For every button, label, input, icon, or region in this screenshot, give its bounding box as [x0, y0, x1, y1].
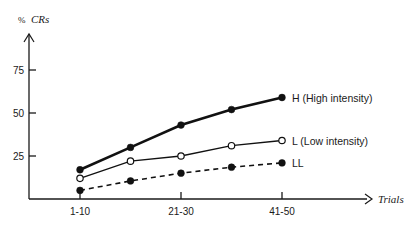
series-2: L (Low intensity): [77, 135, 368, 182]
y-tick-label: 25: [13, 151, 25, 162]
data-point: [77, 166, 84, 173]
data-point: [228, 164, 235, 171]
data-point: [279, 94, 286, 101]
series-label: LL: [292, 157, 304, 169]
x-tick-label: 1-10: [70, 206, 90, 217]
x-tick-label: 41-50: [269, 206, 295, 217]
y-tick-label: 75: [13, 65, 25, 76]
data-point: [127, 178, 134, 185]
data-point: [178, 153, 184, 159]
y-axis-title: CRs: [31, 13, 49, 25]
data-point: [127, 144, 134, 151]
data-point: [77, 187, 84, 194]
data-point: [228, 142, 234, 148]
series-label: L (Low intensity): [292, 135, 368, 147]
data-point: [279, 137, 285, 143]
data-point: [127, 158, 133, 164]
y-tick-label: 50: [13, 108, 25, 119]
line-chart: % CRs 255075 Trials 1-1021-3041-50 H (Hi…: [0, 0, 418, 228]
x-tick-label: 21-30: [168, 206, 194, 217]
y-axis: % CRs 255075: [13, 13, 49, 199]
x-axis: Trials 1-1021-3041-50: [29, 192, 404, 217]
data-point: [228, 106, 235, 113]
series-3: LL: [77, 157, 304, 194]
data-point: [279, 159, 286, 166]
data-point: [77, 175, 83, 181]
x-axis-title: Trials: [378, 193, 404, 205]
series-1: H (High intensity): [77, 92, 373, 174]
series-label: H (High intensity): [292, 92, 373, 104]
data-point: [178, 170, 185, 177]
data-point: [178, 122, 185, 129]
y-axis-title-prefix: %: [18, 15, 26, 25]
